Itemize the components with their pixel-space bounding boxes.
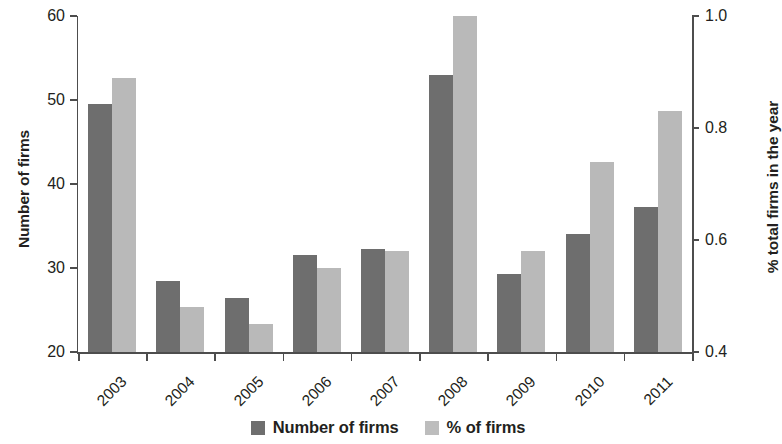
y-axis-left-tick-label: 50 [47,92,65,108]
y-axis-left-line [77,16,79,352]
x-axis-tick [692,352,694,361]
x-axis-tick [351,352,353,361]
y-axis-right-tick-label: 0.4 [705,344,727,360]
y-axis-left-tick-label: 30 [47,260,65,276]
y-axis-left-tick [70,267,77,269]
legend-label: % of firms [447,418,526,437]
legend-entry: % of firms [425,418,526,437]
x-axis-tick [214,352,216,361]
y-axis-right-tick-label: 1.0 [705,8,727,24]
chart-legend: Number of firms% of firms [0,418,776,437]
x-axis-line [77,352,694,354]
x-axis-tick [487,352,489,361]
y-axis-left-tick-label: 20 [47,344,65,360]
bar-number-of-firms [293,255,317,352]
bar-percent-of-firms [658,111,682,352]
bar-number-of-firms [497,274,521,352]
bar-number-of-firms [429,75,453,352]
y-axis-left-tick [70,15,77,17]
y-axis-right-tick [692,127,699,129]
x-axis-tick [283,352,285,361]
y-axis-right-tick-label: 0.8 [705,120,727,136]
y-axis-left-tick [70,99,77,101]
y-axis-left-tick-label: 60 [47,8,65,24]
y-axis-right-title: % total firms in the year [764,67,782,307]
x-axis-tick [556,352,558,361]
y-axis-left-tick [70,183,77,185]
bar-percent-of-firms [317,268,341,352]
y-axis-right-tick-label: 0.6 [705,232,727,248]
bar-percent-of-firms [590,162,614,352]
x-axis-tick [624,352,626,361]
y-axis-right-line [692,16,694,352]
bar-number-of-firms [361,249,385,352]
bar-number-of-firms [634,207,658,352]
bar-percent-of-firms [180,307,204,352]
bar-percent-of-firms [453,16,477,352]
bar-percent-of-firms [112,78,136,352]
y-axis-left-tick-label: 40 [47,176,65,192]
bar-percent-of-firms [249,324,273,352]
y-axis-left-tick [70,351,77,353]
bar-number-of-firms [88,104,112,352]
legend-swatch-icon [425,421,439,435]
bar-percent-of-firms [385,251,409,352]
x-axis-tick [146,352,148,361]
legend-swatch-icon [251,421,265,435]
bar-number-of-firms [225,298,249,352]
legend-entry: Number of firms [251,418,399,437]
bar-number-of-firms [156,281,180,352]
bar-percent-of-firms [521,251,545,352]
bar-number-of-firms [566,234,590,352]
legend-label: Number of firms [273,418,399,437]
x-axis-tick [78,352,80,361]
y-axis-left-title: Number of firms [15,89,33,289]
y-axis-right-tick [692,15,699,17]
y-axis-right-tick [692,239,699,241]
x-axis-tick [419,352,421,361]
plot-area: 2030405060 0.40.60.81.0 2003200420052006… [78,16,692,352]
